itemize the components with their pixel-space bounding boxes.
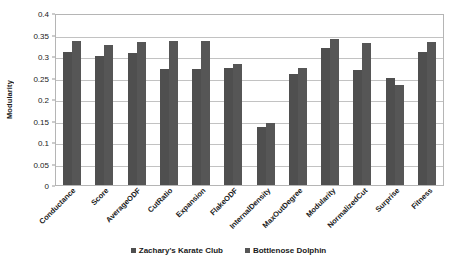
bar-group xyxy=(217,15,249,185)
bar xyxy=(418,52,427,185)
bar xyxy=(72,41,81,185)
y-tick-label: 0.3 xyxy=(38,53,49,62)
y-tick-label: 0 xyxy=(45,182,49,191)
bar-chart-figure: Modularity 00.050.10.150.20.250.30.350.4… xyxy=(0,0,457,269)
bar xyxy=(362,43,371,185)
y-tick-label: 0.1 xyxy=(38,139,49,148)
bar xyxy=(169,41,178,185)
y-tick-label: 0.15 xyxy=(33,117,49,126)
bar-group xyxy=(121,15,153,185)
legend-swatch-icon xyxy=(245,248,250,253)
bar-group xyxy=(88,15,120,185)
bar-group xyxy=(346,15,378,185)
legend-item[interactable]: Bottlenose Dolphin xyxy=(245,246,326,255)
bar-group xyxy=(185,15,217,185)
bar xyxy=(95,56,104,185)
bar-group xyxy=(153,15,185,185)
bar xyxy=(395,85,404,185)
bar-group xyxy=(250,15,282,185)
bar xyxy=(427,42,436,185)
plot-area xyxy=(55,14,444,186)
bar-groups xyxy=(56,15,443,185)
y-axis-tick-labels: 00.050.10.150.20.250.30.350.4 xyxy=(16,14,52,186)
legend-label: Zachary's Karate Club xyxy=(139,246,223,255)
y-tick-label: 0.25 xyxy=(33,74,49,83)
bar-group xyxy=(282,15,314,185)
y-tick-label: 0.35 xyxy=(33,31,49,40)
bar xyxy=(266,123,275,185)
legend-item[interactable]: Zachary's Karate Club xyxy=(131,246,223,255)
bar-group xyxy=(56,15,88,185)
bar xyxy=(330,39,339,185)
legend-label: Bottlenose Dolphin xyxy=(253,246,326,255)
bar xyxy=(160,69,169,185)
bar xyxy=(233,64,242,185)
bar xyxy=(128,53,137,185)
bar xyxy=(289,74,298,185)
bar xyxy=(137,42,146,185)
bar-group xyxy=(314,15,346,185)
bar xyxy=(386,78,395,186)
bar xyxy=(353,70,362,185)
bar xyxy=(201,41,210,185)
bar xyxy=(257,127,266,185)
y-tick-label: 0.4 xyxy=(38,10,49,19)
bar xyxy=(63,52,72,185)
y-tick-label: 0.2 xyxy=(38,96,49,105)
bar-group xyxy=(411,15,443,185)
bar xyxy=(321,48,330,185)
bar xyxy=(192,69,201,185)
legend-swatch-icon xyxy=(131,248,136,253)
y-tick-label: 0.05 xyxy=(33,160,49,169)
bar xyxy=(224,68,233,185)
bar-group xyxy=(379,15,411,185)
chart-legend: Zachary's Karate ClubBottlenose Dolphin xyxy=(0,246,457,255)
bar xyxy=(298,68,307,185)
y-axis-title: Modularity xyxy=(2,60,16,140)
x-axis-tick-labels: ConductanceScoreAverageODFCutRatioExpans… xyxy=(55,186,444,242)
bar xyxy=(104,45,113,185)
